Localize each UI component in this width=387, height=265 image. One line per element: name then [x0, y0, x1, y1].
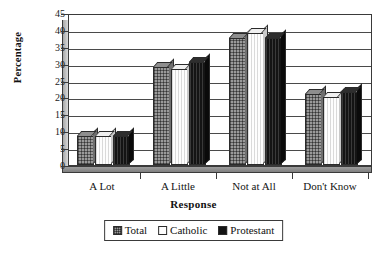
gridline — [69, 83, 371, 84]
bar-side — [205, 53, 210, 164]
bar-face — [230, 39, 245, 164]
legend-label: Total — [125, 224, 147, 236]
bar-face — [190, 63, 205, 164]
y-tick-mark — [61, 14, 69, 15]
y-tick-mark — [61, 65, 69, 66]
x-tick-mark — [368, 173, 369, 179]
bar-face — [154, 68, 169, 164]
legend-swatch-protestant — [218, 226, 227, 235]
bar-protestant-don-t-know — [341, 92, 358, 165]
bar-chart: Percentage 051015202530354045 A LotA Lit… — [0, 0, 387, 265]
bar-face — [306, 95, 321, 164]
plot-area — [68, 14, 372, 166]
gridline — [69, 32, 371, 33]
legend-label: Protestant — [230, 224, 274, 236]
bar-face — [96, 137, 111, 164]
legend-item-protestant: Protestant — [218, 224, 274, 236]
bar-catholic-don-t-know — [323, 97, 340, 165]
y-tick-mark — [61, 132, 69, 133]
bar-side — [281, 30, 286, 164]
y-tick-mark — [61, 98, 69, 99]
bar-total-don-t-know — [305, 94, 322, 165]
legend-item-total: Total — [113, 224, 147, 236]
bar-protestant-a-lot — [113, 136, 130, 165]
bar-face — [114, 137, 129, 164]
bar-protestant-not-at-all — [265, 38, 282, 165]
y-tick-mark — [61, 48, 69, 49]
y-tick-mark — [61, 149, 69, 150]
bar-face — [172, 70, 187, 164]
chart-legend: TotalCatholicProtestant — [104, 220, 284, 241]
bar-face — [78, 137, 93, 164]
bar-catholic-a-little — [171, 69, 188, 165]
bar-total-not-at-all — [229, 38, 246, 165]
bar-catholic-not-at-all — [247, 33, 264, 165]
bar-face — [324, 98, 339, 164]
bar-face — [248, 34, 263, 164]
gridline — [69, 66, 371, 67]
bar-face — [266, 39, 281, 164]
bar-total-a-lot — [77, 136, 94, 165]
bar-side — [357, 84, 362, 164]
legend-label: Catholic — [170, 224, 207, 236]
bar-total-a-little — [153, 67, 170, 165]
y-axis-label: Percentage — [12, 13, 23, 103]
bar-catholic-a-lot — [95, 136, 112, 165]
gridline — [69, 49, 371, 50]
y-tick-mark — [61, 31, 69, 32]
x-axis-label: Response — [0, 198, 387, 210]
y-tick-mark — [61, 115, 69, 116]
legend-swatch-total — [113, 226, 122, 235]
y-tick-mark — [61, 166, 69, 167]
x-tick-mark — [216, 173, 217, 179]
legend-item-catholic: Catholic — [158, 224, 207, 236]
x-tick-label: Don't Know — [275, 180, 385, 192]
bar-face — [342, 93, 357, 164]
x-tick-mark — [140, 173, 141, 179]
bar-protestant-a-little — [189, 62, 206, 165]
plot-floor — [62, 166, 372, 173]
x-tick-mark — [292, 173, 293, 179]
legend-swatch-catholic — [158, 226, 167, 235]
y-tick-mark — [61, 82, 69, 83]
